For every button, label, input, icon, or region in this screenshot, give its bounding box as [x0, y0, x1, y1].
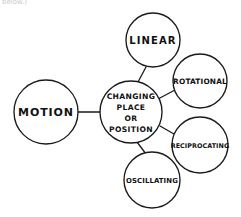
node-rotational[interactable]: ROTATIONAL [173, 54, 227, 108]
node-motion-label: MOTION [18, 106, 74, 119]
node-oscillating[interactable]: OSCILLATING [124, 152, 180, 208]
node-hub-label-line-4: POSITION [109, 125, 153, 134]
connector-hub-to-oscillating [137, 142, 146, 154]
connector-hub-to-rotational [158, 90, 175, 99]
node-hub-label-line-1: CHANGING [107, 92, 156, 101]
node-reciprocating-label: RECIPROCATING [171, 142, 230, 150]
node-linear-label: LINEAR [129, 35, 176, 46]
diagram-canvas: below.) MOTION CHANGING PLACE OR POSITIO… [0, 0, 241, 217]
node-changing-place-or-position[interactable]: CHANGING PLACE OR POSITION [100, 81, 162, 143]
node-linear[interactable]: LINEAR [126, 13, 180, 67]
mind-map-diagram: MOTION CHANGING PLACE OR POSITION LINEAR… [0, 0, 241, 217]
node-hub-label-line-3: OR [124, 114, 137, 123]
connector-hub-to-linear [138, 67, 146, 82]
connector-hub-to-reciprocating [160, 126, 174, 134]
node-motion[interactable]: MOTION [14, 80, 78, 144]
node-reciprocating[interactable]: RECIPROCATING [171, 117, 230, 173]
node-hub-label-line-2: PLACE [117, 103, 146, 112]
node-rotational-label: ROTATIONAL [173, 77, 227, 86]
node-oscillating-label: OSCILLATING [126, 177, 178, 185]
